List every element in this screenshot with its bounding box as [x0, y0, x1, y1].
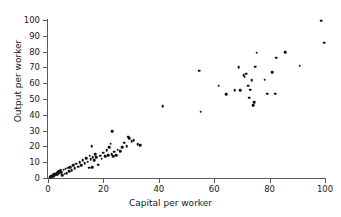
- data-point: [90, 145, 93, 148]
- data-point: [119, 150, 122, 153]
- data-point: [298, 64, 301, 67]
- data-point: [80, 164, 83, 167]
- data-point: [237, 66, 240, 69]
- data-point: [102, 151, 105, 154]
- y-tick-label: 60: [29, 79, 40, 88]
- y-axis-title: Output per worker: [13, 11, 23, 151]
- data-point: [123, 141, 126, 144]
- y-tick-mark: [43, 52, 47, 53]
- data-point: [105, 149, 108, 152]
- y-tick-mark: [43, 178, 47, 179]
- data-point: [254, 65, 257, 68]
- y-tick-mark: [43, 146, 47, 147]
- data-point: [113, 150, 116, 153]
- scatter-plot-figure: Output per worker Capital per worker 010…: [0, 0, 341, 217]
- y-tick-label: 70: [29, 63, 40, 72]
- data-point: [87, 160, 90, 163]
- x-tick-mark: [325, 179, 326, 183]
- x-axis-line: [47, 178, 326, 179]
- x-tick-mark: [103, 179, 104, 183]
- y-tick-label: 80: [29, 47, 40, 56]
- data-point: [95, 156, 98, 159]
- data-point: [249, 88, 252, 91]
- y-tick-label: 10: [29, 158, 40, 167]
- data-point: [92, 156, 95, 159]
- data-point: [323, 41, 326, 44]
- y-tick-label: 30: [29, 126, 40, 135]
- y-tick-mark: [43, 83, 47, 84]
- data-point: [284, 51, 287, 54]
- y-tick-mark: [43, 131, 47, 132]
- data-point: [233, 89, 236, 92]
- data-point: [248, 96, 251, 99]
- data-point: [161, 105, 164, 108]
- data-point: [109, 143, 112, 146]
- data-point: [256, 51, 259, 54]
- data-point: [73, 167, 76, 170]
- data-point: [263, 78, 266, 81]
- plot-area: [48, 20, 325, 178]
- x-tick-label: 40: [153, 185, 164, 194]
- data-point: [104, 155, 107, 158]
- x-tick-mark: [270, 179, 271, 183]
- data-point: [320, 19, 323, 22]
- x-tick-mark: [214, 179, 215, 183]
- y-tick-label: 90: [29, 32, 40, 41]
- data-point: [100, 157, 103, 160]
- data-point: [239, 89, 242, 92]
- y-tick-label: 0: [35, 174, 40, 183]
- data-point: [85, 157, 88, 160]
- x-tick-label: 100: [317, 185, 333, 194]
- data-point: [245, 72, 248, 75]
- data-point: [274, 92, 277, 95]
- data-point: [97, 163, 100, 166]
- data-point: [88, 166, 91, 169]
- data-point: [133, 139, 136, 142]
- data-point: [91, 166, 94, 169]
- y-tick-label: 40: [29, 111, 40, 120]
- data-point: [225, 93, 228, 96]
- data-point: [217, 84, 220, 87]
- x-tick-label: 0: [45, 185, 50, 194]
- data-point: [108, 146, 111, 149]
- data-point: [125, 145, 128, 148]
- data-point: [253, 101, 256, 104]
- y-tick-mark: [43, 115, 47, 116]
- y-tick-mark: [43, 36, 47, 37]
- data-point: [200, 110, 203, 113]
- data-point: [93, 159, 96, 162]
- x-tick-label: 60: [209, 185, 220, 194]
- data-point: [266, 92, 269, 95]
- data-point: [83, 162, 86, 165]
- data-point: [198, 69, 201, 72]
- x-tick-label: 20: [98, 185, 109, 194]
- data-point: [275, 56, 278, 59]
- x-tick-label: 80: [264, 185, 275, 194]
- x-tick-mark: [48, 179, 49, 183]
- data-point: [247, 84, 250, 87]
- y-tick-label: 100: [24, 16, 40, 25]
- y-tick-label: 20: [29, 142, 40, 151]
- data-point: [252, 104, 255, 107]
- y-tick-mark: [43, 162, 47, 163]
- y-tick-mark: [43, 20, 47, 21]
- y-tick-mark: [43, 67, 47, 68]
- y-tick-mark: [43, 99, 47, 100]
- data-point: [111, 130, 114, 133]
- y-tick-label: 50: [29, 95, 40, 104]
- data-point: [251, 79, 254, 82]
- data-point: [271, 71, 274, 74]
- data-point: [121, 146, 124, 149]
- data-point: [243, 76, 246, 79]
- data-point: [115, 154, 118, 157]
- data-point: [107, 154, 110, 157]
- data-point: [139, 144, 142, 147]
- x-tick-mark: [159, 179, 160, 183]
- data-point: [77, 165, 80, 168]
- x-axis-title: Capital per worker: [0, 198, 341, 208]
